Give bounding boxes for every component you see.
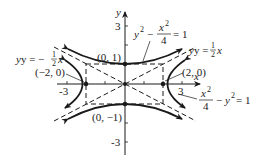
point-neg2-0	[84, 82, 89, 87]
svg-text:2: 2	[211, 50, 215, 59]
point-label-neg2-0: (−2, 0)	[35, 66, 65, 79]
svg-text:x: x	[158, 21, 164, 33]
svg-text:2: 2	[140, 25, 144, 34]
svg-text:x: x	[216, 44, 222, 56]
point-0-1	[123, 62, 128, 67]
hyperbola-diagram: x -3 3 y 3 -3 (0, 1) (0, −1) (−2, 0) (2,…	[0, 0, 268, 162]
svg-text:y: y	[224, 94, 230, 106]
vertical-hyperbola-label: y 2 − x 2 4 = 1	[133, 19, 187, 61]
asymptote-positive-label: yy = 1 2 x	[188, 41, 222, 59]
svg-text:yy =: yy =	[188, 44, 208, 56]
y-tick-neg3: -3	[111, 136, 121, 148]
svg-text:2: 2	[165, 19, 169, 28]
svg-text:yy = −: yy = −	[15, 53, 44, 65]
svg-text:−: −	[216, 94, 222, 106]
svg-text:1: 1	[52, 50, 56, 59]
y-axis-label: y	[115, 6, 121, 18]
svg-text:1: 1	[211, 41, 215, 50]
origin-point	[123, 82, 127, 86]
svg-text:2: 2	[207, 85, 211, 94]
svg-text:y: y	[133, 28, 139, 40]
svg-text:4: 4	[161, 34, 167, 46]
point-2-0	[161, 82, 166, 87]
svg-text:2: 2	[52, 59, 56, 68]
point-0-neg1	[123, 102, 128, 107]
point-label-2-0: (2, 0)	[182, 66, 206, 79]
point-label-0-neg1: (0, −1)	[92, 111, 122, 124]
svg-text:4: 4	[203, 100, 209, 112]
point-label-0-1: (0, 1)	[97, 51, 121, 64]
x-tick-neg3: -3	[59, 85, 69, 97]
svg-text:x: x	[57, 53, 63, 65]
y-tick-3: 3	[115, 20, 121, 32]
svg-text:= 1: = 1	[236, 94, 250, 106]
svg-text:= 1: = 1	[173, 28, 187, 40]
horizontal-hyperbola-label: x 2 4 − y 2 = 1	[178, 85, 250, 112]
svg-text:2: 2	[231, 91, 235, 100]
svg-text:x: x	[200, 87, 206, 99]
svg-text:−: −	[147, 28, 153, 40]
